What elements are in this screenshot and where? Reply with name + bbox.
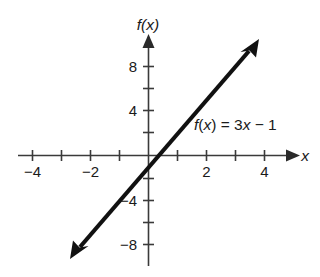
function-graph-figure: −4 −2 2 4 8 4 −4 −8 f(x) x f(x) = 3x − 1 bbox=[0, 0, 320, 277]
y-axis-arrow-icon bbox=[143, 34, 155, 48]
equation-equals-three: = 3 bbox=[216, 116, 242, 133]
y-axis-label: f(x) bbox=[137, 16, 159, 33]
function-line-group bbox=[70, 39, 259, 259]
equation-minus-one: − 1 bbox=[250, 116, 276, 133]
y-tick-label--4: −4 bbox=[120, 192, 137, 209]
function-line-f bbox=[80, 51, 249, 247]
equation-annotation: f(x) = 3x − 1 bbox=[194, 116, 277, 133]
x-tick-label--4: −4 bbox=[24, 163, 41, 180]
x-tick-label-4: 4 bbox=[260, 163, 268, 180]
x-tick-label-2: 2 bbox=[202, 163, 210, 180]
y-tick-label-8: 8 bbox=[129, 58, 137, 75]
y-tick-label--8: −8 bbox=[120, 236, 137, 253]
x-tick-label--2: −2 bbox=[82, 163, 99, 180]
x-axis-arrow-icon bbox=[286, 150, 300, 162]
x-axis-label: x bbox=[300, 147, 310, 164]
y-tick-label-4: 4 bbox=[129, 102, 137, 119]
graph-canvas: −4 −2 2 4 8 4 −4 −8 f(x) x f(x) = 3x − 1 bbox=[0, 0, 320, 277]
axes-group bbox=[18, 34, 300, 266]
